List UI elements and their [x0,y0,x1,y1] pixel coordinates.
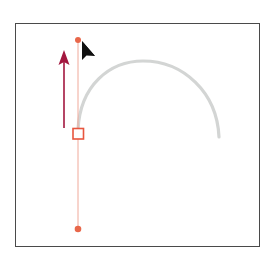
diagram-canvas [0,0,269,261]
direction-handle-bottom[interactable] [75,226,82,233]
illustration-layer [0,0,269,261]
anchor-point[interactable] [73,129,84,140]
drag-up-arrow-icon [59,50,70,128]
cursor-arrow-icon [82,41,95,60]
direction-handle-top[interactable] [75,37,81,43]
curve-path[interactable] [78,61,219,137]
